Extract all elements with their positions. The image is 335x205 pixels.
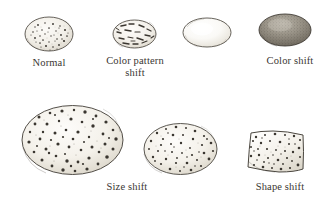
- caption-color-pattern-shift: Color pattern shift: [100, 55, 170, 78]
- egg-variation-figure: Normal: [0, 0, 335, 205]
- shape-shift-egg-drawing: [245, 127, 307, 177]
- pale-egg-drawing: [182, 17, 232, 48]
- specimen-color-shift-pale: [182, 17, 232, 48]
- color-pattern-shift-egg-drawing: [112, 19, 157, 49]
- specimen-size-shift-medium: [143, 122, 218, 176]
- normal-egg-drawing: [24, 16, 74, 52]
- caption-color-shift: Color shift: [251, 55, 329, 67]
- specimen-color-pattern-shift: [112, 19, 157, 49]
- specimen-size-shift-large: [21, 104, 124, 176]
- large-egg-drawing: [21, 104, 124, 176]
- specimen-shape-shift: [245, 127, 307, 177]
- medium-egg-drawing: [143, 122, 218, 176]
- specimen-color-shift: [258, 13, 312, 47]
- caption-normal: Normal: [12, 57, 86, 69]
- caption-size-shift: Size shift: [88, 181, 166, 193]
- color-shift-egg-drawing: [258, 13, 312, 47]
- caption-shape-shift: Shape shift: [238, 181, 322, 193]
- specimen-normal: [24, 16, 74, 52]
